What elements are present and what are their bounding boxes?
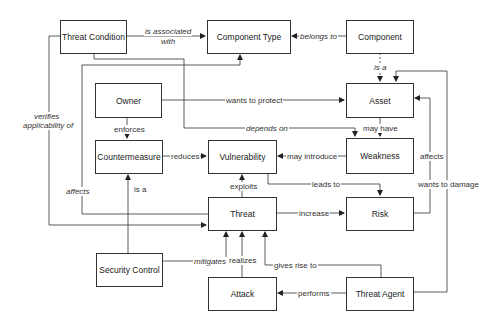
node-threat: Threat [208,197,277,231]
edge-label-is-a-component: is a [373,63,387,72]
edge-label-enforces: enforces [113,125,146,134]
node-owner: Owner [95,83,162,118]
edge-label-gives-rise-to: gives rise to [273,261,318,270]
edge-label-affects-asset: affects [419,152,444,161]
edge-label-performs: performs [297,289,331,298]
node-component-type: Component Type [207,20,291,54]
node-component: Component [346,20,414,54]
edge-label-mitigates: mitigates [193,257,227,266]
edge-label-exploits: exploits [229,182,258,191]
edge-label-wants-to-protect: wants to protect [225,96,283,105]
edge-label-applicability-of: applicability of [22,121,74,130]
edge-label-reduces: reduces [170,152,200,161]
node-attack: Attack [208,277,277,311]
edge-label-may-introduce: may introduce [286,152,338,161]
edge-label-affects-component-type: affects [65,187,91,196]
edge-label-leads-to: leads to [311,180,341,189]
edge-label-depends-on: depends on [245,124,289,133]
node-countermeasure: Countermeasure [95,140,163,174]
edge-label-is-associated: is associated [144,27,192,36]
node-weakness: Weakness [346,138,414,174]
edge-label-wants-to-damage: wants to damage [417,180,480,189]
node-asset: Asset [346,83,414,118]
node-vulnerability: Vulnerability [208,140,277,174]
edge-label-realizes: realizes [228,256,258,265]
threat-model-diagram: Threat Condition Component Type Componen… [0,0,498,327]
node-risk: Risk [346,197,414,231]
edge-label-with: with [160,37,176,46]
node-threat-agent: Threat Agent [346,277,414,311]
edge-label-increase: increase [298,209,330,218]
edge-label-belongs-to: belongs to [299,32,338,41]
edge-label-is-a-control: is a [133,185,147,194]
edge-label-may-have: may have [362,124,399,133]
node-threat-condition: Threat Condition [60,20,127,54]
edge-label-verifies: verifies [33,112,60,121]
node-security-control: Security Control [96,253,163,287]
